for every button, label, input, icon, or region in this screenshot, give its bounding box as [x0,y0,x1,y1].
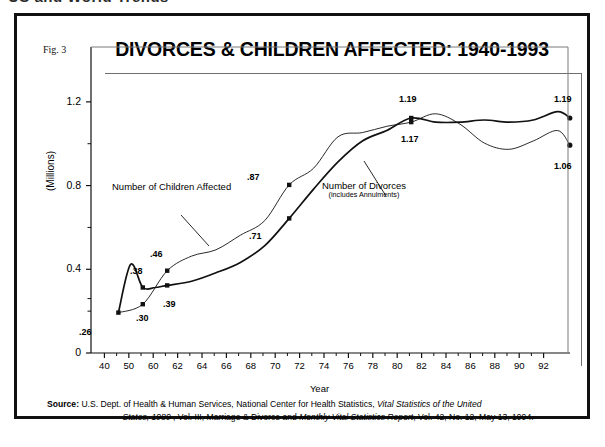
source-line1-a: U.S. Dept. of Health & Human Services, N… [81,399,377,409]
source-line2-c: , Vol. 42, No. 12, May 13, 1994. [413,412,533,422]
x-tick-label: 70 [263,360,287,371]
data-point-label: 1.06 [554,161,572,171]
source-label: Source: [47,399,79,409]
x-axis-title: Year [17,383,605,394]
source-line2-italic-a: States, 1989 [122,412,170,422]
data-point-label: 1.19 [554,94,572,104]
source-line1-italic: Vital Statistics of the United [377,399,481,409]
data-point-label: .39 [163,299,176,309]
y-tick-label: 0 [47,346,81,358]
source-line2: States, 1989 , Vol. III, Marriage & Divo… [47,411,595,424]
series-label-divorces-subtext: (includes Annulments) [322,190,406,199]
y-tick-label: 0.8 [47,179,81,191]
x-tick-label: 74 [312,360,336,371]
page-title: DIVORCES & CHILDREN AFFECTED: 1940-1993 [77,38,587,61]
series-label-children: Number of Children Affected [112,181,231,192]
figure-number-label: Fig. 3 [43,44,66,55]
x-tick-label: 66 [214,360,238,371]
figure-box: Fig. 3 DIVORCES & CHILDREN AFFECTED: 194… [14,13,590,419]
series-label-divorces: Number of Divorces (includes Annulments) [322,180,406,199]
data-point-label: .71 [249,231,262,241]
x-tick-label: 90 [507,360,531,371]
x-tick-label: 72 [288,360,312,371]
x-tick-label: 84 [434,360,458,371]
x-tick-label: 92 [532,360,556,371]
x-tick-label: 88 [483,360,507,371]
series-label-children-text: Number of Children Affected [112,181,231,192]
x-tick-label: 50 [117,360,141,371]
scan-artifact-top-text: US and World Trends [0,0,605,9]
chart-lines [105,74,582,367]
data-point-label: .26 [79,327,92,337]
x-tick-label: 60 [141,360,165,371]
x-tick-label: 76 [336,360,360,371]
y-tick-label: 0.4 [47,262,81,274]
y-tick-label: 1.2 [47,95,81,107]
x-tick-label: 40 [92,360,116,371]
x-tick-label: 78 [361,360,385,371]
data-point-label: 1.17 [401,134,419,144]
x-tick-label: 86 [458,360,482,371]
source-note: Source: U.S. Dept. of Health & Human Ser… [47,398,595,423]
data-point-label: .46 [150,249,163,259]
x-tick-label: 80 [385,360,409,371]
x-tick-label: 68 [239,360,263,371]
data-point-label: .87 [247,172,260,182]
data-point-label: .30 [136,313,149,323]
x-tick-label: 62 [166,360,190,371]
data-point-label: 1.19 [399,94,417,104]
source-line2-italic-b: Monthly Vital Statistics Report [299,412,413,422]
source-line2-b: , Vol. III, Marriage & Divorce and [171,412,299,422]
data-point-label: .38 [130,266,143,276]
plot-area [105,73,582,366]
x-tick-label: 64 [190,360,214,371]
cut-off-header-text: US and World Trends [8,0,169,5]
x-tick-label: 82 [410,360,434,371]
